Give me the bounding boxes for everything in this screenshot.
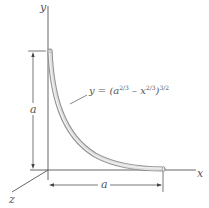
equation-prefix: y = (a (89, 85, 119, 96)
rod-end-top (47, 50, 52, 52)
equation-exponent-3: 3/2 (159, 84, 169, 91)
z-axis (12, 170, 48, 192)
vertical-dimension-label: a (30, 104, 37, 115)
y-axis-label: y (40, 2, 46, 13)
arrowhead-right-icon (157, 183, 162, 186)
arrowhead-left-icon (49, 183, 54, 186)
equation-exponent-1: 2/3 (119, 84, 129, 91)
equation-leader-line (70, 95, 87, 104)
equation-exponent-2: 2/3 (146, 84, 156, 91)
arrowhead-up-icon (31, 52, 34, 57)
z-axis-label: z (9, 194, 15, 205)
arrowhead-down-icon (31, 164, 34, 169)
equation-minus: – x (129, 85, 146, 96)
astroid-rod-diagram: y x z a a y = (a2/3 – x2/3)3/2 (0, 0, 209, 208)
curved-rod-highlight (50, 51, 163, 169)
curve-equation: y = (a2/3 – x2/3)3/2 (89, 85, 169, 96)
curved-rod (50, 51, 163, 169)
x-axis-label: x (197, 168, 203, 179)
horizontal-dimension-label: a (101, 179, 108, 190)
rod-end-right (162, 166, 164, 171)
